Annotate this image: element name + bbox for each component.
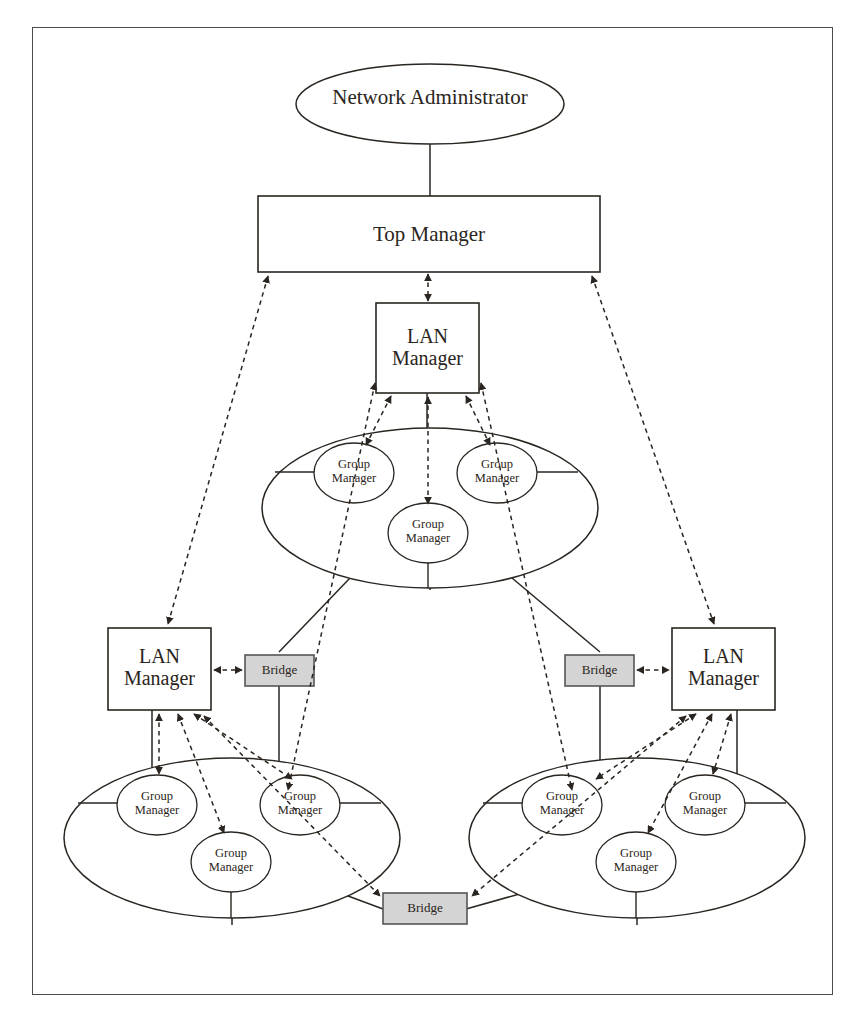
mgmt-topmanager-lanmgr-left xyxy=(168,276,268,624)
group-manager-ellipse[interactable] xyxy=(260,775,340,835)
bridge-right-box[interactable] xyxy=(565,655,634,686)
group-manager-ellipse[interactable] xyxy=(596,832,676,892)
link-lanbottomright-bridgebottom xyxy=(466,893,523,909)
lan-manager-right-box[interactable] xyxy=(672,628,775,710)
group-manager-ellipse[interactable] xyxy=(314,443,394,503)
group-manager-ellipse[interactable] xyxy=(665,775,745,835)
lan-top-cloud xyxy=(262,428,598,588)
group-manager-ellipse[interactable] xyxy=(191,832,271,892)
bridge-left-box[interactable] xyxy=(245,655,314,686)
network-hierarchy-svg xyxy=(0,0,863,1027)
bridge-bottom-box[interactable] xyxy=(383,893,467,924)
diagram-page: Network Administrator Top Manager LAN Ma… xyxy=(0,0,863,1027)
mgmt-lanmgr-right-gm2 xyxy=(713,714,731,774)
link-lantop-bridgeright xyxy=(512,578,600,652)
lan-bottom-left-cloud xyxy=(64,758,400,918)
lan-bottom-right-cloud xyxy=(469,758,805,918)
group-manager-ellipse[interactable] xyxy=(117,775,197,835)
group-manager-ellipse[interactable] xyxy=(388,503,468,563)
group-manager-ellipse[interactable] xyxy=(522,775,602,835)
top-manager-box[interactable] xyxy=(258,196,600,272)
mgmt-topmanager-lanmgr-right xyxy=(592,276,714,624)
lan-manager-left-box[interactable] xyxy=(108,628,211,710)
network-administrator-ellipse[interactable] xyxy=(296,64,564,144)
lan-manager-center-box[interactable] xyxy=(376,303,479,393)
link-lantop-bridgeleft xyxy=(279,578,350,652)
